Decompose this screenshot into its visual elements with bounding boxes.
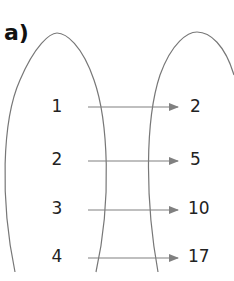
range-value: 17 (188, 248, 210, 265)
range-value: 10 (188, 200, 210, 217)
range-value: 2 (190, 98, 201, 115)
domain-value: 1 (42, 98, 72, 115)
domain-value: 4 (42, 248, 72, 265)
range-value: 5 (190, 151, 201, 168)
domain-value: 2 (42, 151, 72, 168)
domain-value: 3 (42, 200, 72, 217)
part-label: a) (4, 22, 29, 44)
diagram-graphics (0, 0, 234, 281)
mapping-diagram: a) 1 2 3 4 2 5 10 17 (0, 0, 234, 281)
